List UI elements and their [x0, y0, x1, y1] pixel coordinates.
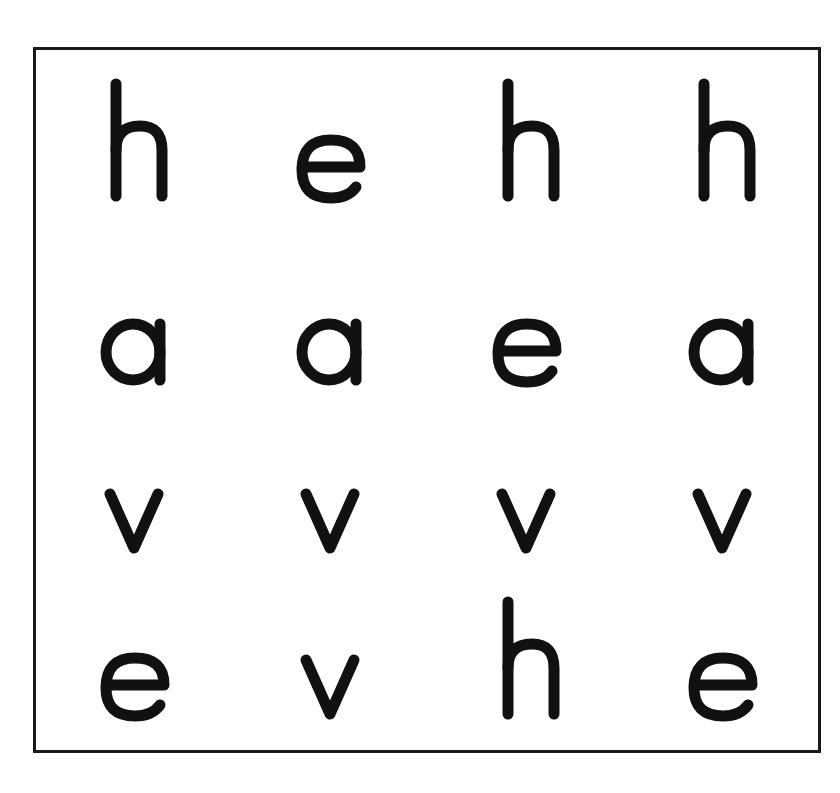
letter-v-r3c3: v	[494, 416, 614, 556]
letter-e-r4c1: e	[100, 582, 220, 722]
letter-e-r1c2: e	[296, 64, 416, 204]
letter-v-r3c4: v	[690, 416, 810, 556]
letter-v-r3c2: v	[298, 416, 418, 556]
letter-h-r4c3: h	[496, 582, 616, 722]
letter-a-r2c1: a	[100, 248, 220, 388]
letter-a-r2c4: a	[688, 248, 808, 388]
letter-a-r2c2: a	[296, 248, 416, 388]
letter-e-r4c4: e	[688, 582, 808, 722]
letter-v-r4c2: v	[298, 582, 418, 722]
letter-h-r1c4: h	[692, 64, 812, 204]
letter-e-r2c3: e	[492, 248, 612, 388]
letter-v-r3c1: v	[102, 416, 222, 556]
letter-h-r1c1: h	[104, 64, 224, 204]
letter-h-r1c3: h	[496, 64, 616, 204]
